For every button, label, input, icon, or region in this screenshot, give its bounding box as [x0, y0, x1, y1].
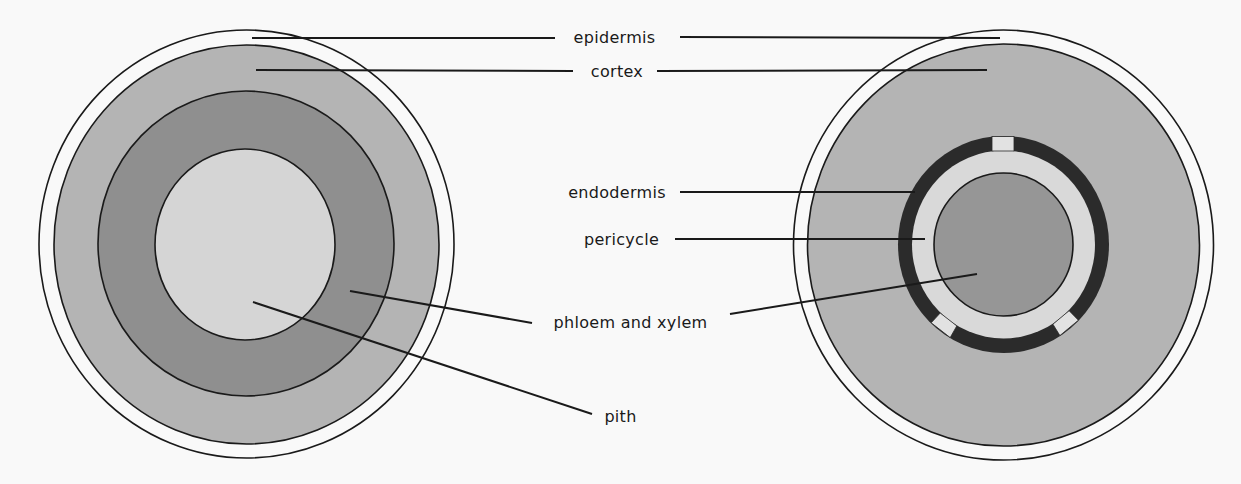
label-pericycle: pericycle [584, 230, 659, 249]
label-cortex: cortex [591, 62, 643, 81]
label-epidermis: epidermis [574, 28, 656, 47]
root-cross-section [794, 30, 1214, 460]
plant-tissue-diagram: epidermis cortex endodermis pericycle ph… [0, 0, 1241, 484]
stem-cross-section [39, 30, 454, 458]
leader-epidermis-right [680, 37, 1000, 38]
passage-cell-top [992, 137, 1014, 152]
label-endodermis: endodermis [568, 183, 666, 202]
leader-cortex-left [256, 70, 573, 71]
root-vascular-core [934, 173, 1073, 316]
label-phloem-and-xylem: phloem and xylem [554, 313, 708, 332]
leader-cortex-right [657, 70, 987, 71]
label-pith: pith [604, 407, 636, 426]
stem-pith [155, 149, 335, 340]
